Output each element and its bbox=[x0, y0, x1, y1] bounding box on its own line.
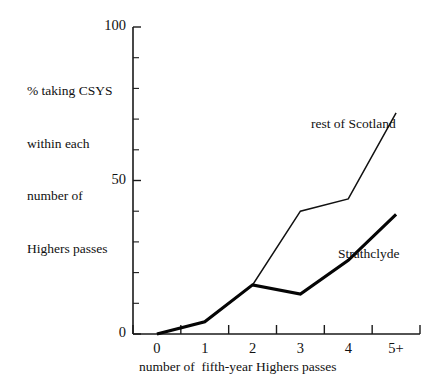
y-axis-label-line-1: % taking CSYS bbox=[27, 82, 113, 100]
x-tick-label: 3 bbox=[275, 340, 325, 357]
series-line-strathclyde bbox=[157, 214, 396, 334]
x-axis-caption: number of fifth-year Highers passes bbox=[139, 359, 337, 375]
y-axis-ticks bbox=[133, 27, 141, 334]
series-label-rest-of-scotland: rest of Scotland bbox=[311, 116, 396, 132]
series-line-rest-of-scotland bbox=[157, 113, 396, 334]
x-tick-label: 4 bbox=[323, 340, 373, 357]
y-axis-label: % taking CSYS within each number of High… bbox=[27, 47, 113, 292]
series-label-strathclyde: Strathclyde bbox=[338, 246, 399, 262]
y-tick-label: 0 bbox=[78, 324, 126, 341]
x-tick-label: 5+ bbox=[371, 340, 421, 357]
y-tick-label: 50 bbox=[78, 171, 126, 188]
x-tick-label: 2 bbox=[228, 340, 278, 357]
y-axis-label-line-2: within each bbox=[27, 135, 113, 153]
chart-container: % taking CSYS within each number of High… bbox=[0, 0, 434, 390]
x-tick-label: 0 bbox=[132, 340, 182, 357]
y-axis-label-line-4: Highers passes bbox=[27, 240, 113, 258]
x-tick-label: 1 bbox=[180, 340, 230, 357]
y-axis-label-line-3: number of bbox=[27, 187, 113, 205]
data-series-group bbox=[157, 113, 396, 334]
y-tick-label: 100 bbox=[78, 17, 126, 34]
